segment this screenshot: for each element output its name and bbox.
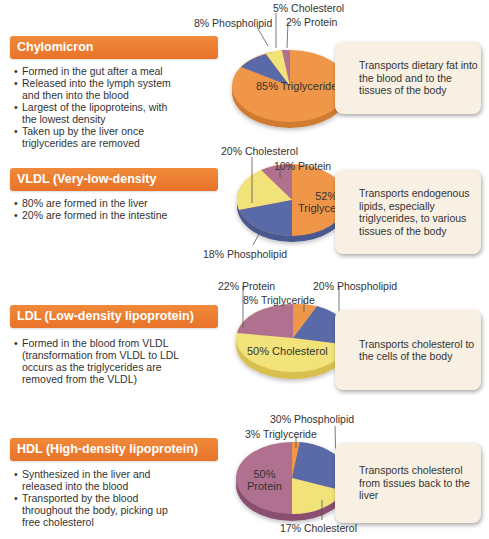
hdl-bullets: Synthesized in the liver and released in… xyxy=(14,468,184,528)
label-phospholipid: 8% Phospholipid xyxy=(194,17,272,29)
chylomicron-description: Transports dietary fat into the blood an… xyxy=(335,42,481,114)
label-phospholipid: 18% Phospholipid xyxy=(203,248,287,260)
label-cholesterol: 50% Cholesterol xyxy=(247,345,328,357)
name: Protein xyxy=(247,480,282,492)
bullet: Taken up by the liver once triglycerides… xyxy=(14,125,174,149)
bullet: Released into the lymph system and then … xyxy=(14,77,174,101)
vldl-description: Transports endogenous lipids, especially… xyxy=(335,170,481,254)
label-cholesterol: 17% Cholesterol xyxy=(280,522,357,534)
bullet: 20% are formed in the intestine xyxy=(14,209,214,221)
chylomicron-bullets: Formed in the gut after a meal Released … xyxy=(14,65,174,149)
label-cholesterol: 5% Cholesterol xyxy=(273,2,344,14)
label-phospholipid: 20% Phospholipid xyxy=(313,280,397,292)
bullet: Synthesized in the liver and released in… xyxy=(14,468,184,492)
ldl-bullets: Formed in the blood from VLDL (transform… xyxy=(14,337,189,385)
section-header-ldl: LDL (Low-density lipoprotein) xyxy=(10,305,218,328)
section-header-hdl: HDL (High-density lipoprotein) xyxy=(10,438,218,461)
ldl-description: Transports cholesterol to the cells of t… xyxy=(335,310,481,390)
bullet: Transported by the blood throughout the … xyxy=(14,492,184,528)
label-protein: 50%Protein xyxy=(247,468,282,492)
pct: 52% xyxy=(315,190,337,202)
section-header-vldl: VLDL (Very-low-density lipoprotein) xyxy=(10,168,218,191)
label-cholesterol: 20% Cholesterol xyxy=(221,145,298,157)
label-protein: 10% Protein xyxy=(274,160,331,172)
label-protein: 2% Protein xyxy=(286,16,337,28)
label-protein: 22% Protein xyxy=(218,280,275,292)
vldl-bullets: 80% are formed in the liver 20% are form… xyxy=(14,197,214,221)
section-header-chylomicron: Chylomicron xyxy=(10,36,218,59)
ldl-pie xyxy=(236,304,351,379)
bullet: Largest of the lipoproteins, with the lo… xyxy=(14,101,174,125)
bullet: 80% are formed in the liver xyxy=(14,197,214,209)
label-phospholipid: 30% Phospholipid xyxy=(270,413,354,425)
hdl-description: Transports cholesterol from tissues back… xyxy=(335,443,481,523)
pct: 50% xyxy=(253,468,275,480)
label-triglyceride: 3% Triglyceride xyxy=(245,428,317,440)
label-triglyceride: 85% Triglyceride xyxy=(256,80,337,92)
label-triglyceride: 8% Triglyceride xyxy=(243,294,315,306)
bullet: Formed in the gut after a meal xyxy=(14,65,174,77)
bullet: Formed in the blood from VLDL (transform… xyxy=(14,337,189,385)
